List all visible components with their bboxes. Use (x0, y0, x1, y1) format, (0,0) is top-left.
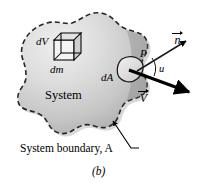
mass-element-label: dm (50, 64, 63, 75)
system-boundary-label: System boundary, A (20, 143, 113, 155)
velocity-vector-label: V (138, 88, 149, 104)
cube-wireframe-icon (54, 33, 81, 60)
system-label: System (45, 89, 82, 102)
normal-vector-label: n (172, 30, 183, 46)
pressure-label: P (140, 48, 147, 59)
vector-overarrow-icon (172, 30, 183, 36)
vector-overarrow-icon (138, 88, 149, 94)
thermodynamics-system-figure: dV dm dA System P u n V System boundary,… (0, 0, 201, 184)
figure-caption: (b) (92, 166, 105, 178)
figure-graphics (0, 0, 201, 184)
area-element-label: dA (101, 72, 113, 83)
angle-label: u (159, 64, 164, 75)
volume-element-label: dV (36, 36, 48, 47)
